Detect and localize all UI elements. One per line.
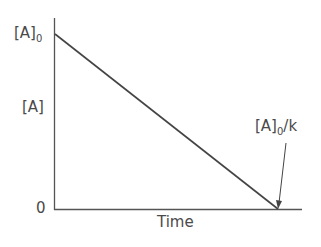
annotation-arrow — [279, 143, 286, 203]
y-tick-a0: [A]0 — [14, 24, 42, 44]
y-tick-zero: 0 — [36, 199, 46, 217]
y-axis-label: [A] — [22, 98, 44, 116]
data-line — [55, 34, 278, 209]
x-axis-label: Time — [157, 213, 194, 231]
intercept-annotation: [A]0/k — [255, 117, 297, 137]
